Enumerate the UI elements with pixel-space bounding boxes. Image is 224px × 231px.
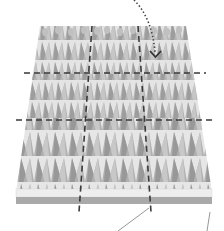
leader-line-substrate <box>207 212 210 231</box>
spike-field <box>0 20 224 198</box>
textured-surface-diagram <box>0 0 224 231</box>
leader-lines <box>118 208 210 231</box>
base-substrate <box>16 189 212 204</box>
leader-line-surface <box>118 208 149 231</box>
